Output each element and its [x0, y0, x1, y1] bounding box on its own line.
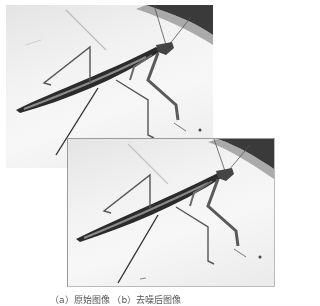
mantis-illustration: [68, 139, 274, 286]
figure-caption: （a）原始图像 （b）去噪后图像: [50, 294, 230, 306]
photo-mantis-processed: [67, 138, 275, 287]
